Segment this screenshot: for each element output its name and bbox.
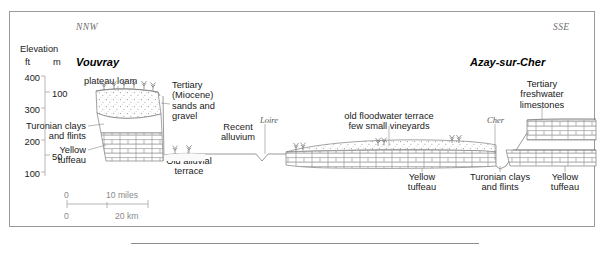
stratum-vouvray-plateau (96, 80, 164, 161)
stratum-old-alluvial-terrace (164, 145, 205, 161)
cross-section-drawing (0, 0, 606, 258)
stratum-recent-alluvium (205, 124, 286, 161)
stratum-old-floodwater-terrace (286, 135, 496, 168)
axis-ruler (41, 76, 50, 176)
stratum-azay-sur-cher (506, 119, 596, 166)
river-cher-notch (495, 124, 506, 169)
scale-bar (67, 200, 148, 208)
